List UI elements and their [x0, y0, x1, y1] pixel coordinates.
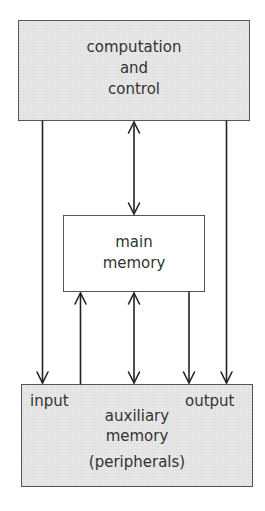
- connector-arrows: [0, 0, 265, 511]
